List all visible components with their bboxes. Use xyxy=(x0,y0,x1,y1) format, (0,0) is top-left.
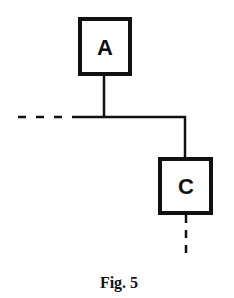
node-a-label: A xyxy=(97,35,113,60)
diagram-canvas: A C Fig. 5 xyxy=(0,0,234,298)
node-a: A xyxy=(80,19,130,74)
node-c: C xyxy=(160,159,211,213)
node-c-label: C xyxy=(178,174,194,199)
figure-caption: Fig. 5 xyxy=(100,274,138,292)
